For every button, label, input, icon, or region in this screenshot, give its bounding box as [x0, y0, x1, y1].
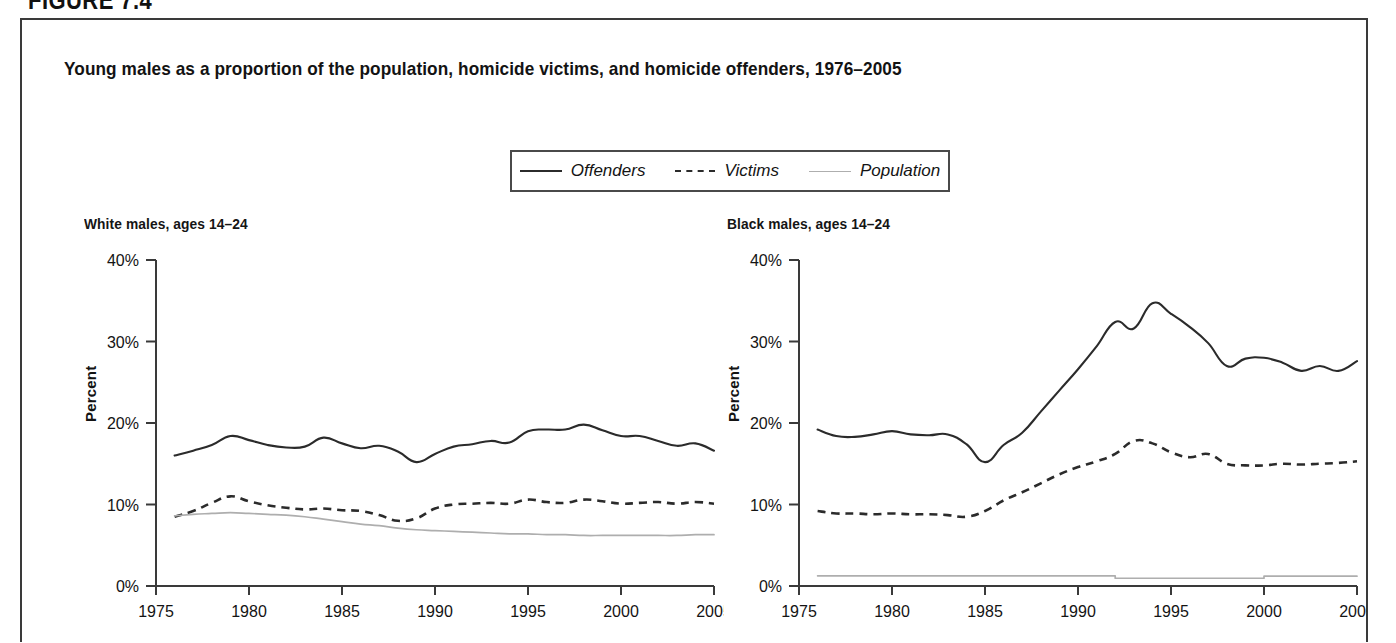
figure-number-header: FIGURE 7.4	[28, 0, 152, 15]
legend-label-victims: Victims	[724, 161, 778, 181]
svg-text:30%: 30%	[107, 334, 139, 351]
svg-text:10%: 10%	[107, 497, 139, 514]
chart-legend: Offenders Victims Population	[510, 150, 950, 192]
svg-text:2005: 2005	[1339, 603, 1367, 620]
svg-text:2000: 2000	[1246, 603, 1282, 620]
chart-panel-white-males: White males, ages 14–24 Percent 0%10%20%…	[84, 216, 724, 643]
dashed-line-icon	[675, 170, 715, 172]
legend-label-population: Population	[860, 161, 940, 181]
svg-text:0%: 0%	[116, 578, 139, 595]
svg-text:1995: 1995	[1153, 603, 1189, 620]
line-chart-black-males: 0%10%20%30%40%19751980198519901995200020…	[727, 246, 1367, 643]
thin-line-icon	[809, 171, 851, 172]
svg-text:20%: 20%	[750, 415, 782, 432]
svg-text:1990: 1990	[1060, 603, 1096, 620]
figure-frame: Young males as a proportion of the popul…	[20, 18, 1368, 642]
svg-text:0%: 0%	[759, 578, 782, 595]
svg-text:40%: 40%	[750, 252, 782, 269]
plot-area-white-males: Percent 0%10%20%30%40%197519801985199019…	[84, 246, 724, 643]
solid-line-icon	[520, 170, 562, 172]
svg-text:30%: 30%	[750, 334, 782, 351]
line-chart-white-males: 0%10%20%30%40%19751980198519901995200020…	[84, 246, 724, 643]
svg-text:2000: 2000	[603, 603, 639, 620]
svg-text:1990: 1990	[417, 603, 453, 620]
svg-text:1985: 1985	[324, 603, 360, 620]
chart-panel-black-males: Black males, ages 14–24 Percent 0%10%20%…	[727, 216, 1367, 643]
legend-item-population: Population	[809, 161, 940, 181]
legend-label-offenders: Offenders	[571, 161, 646, 181]
svg-text:20%: 20%	[107, 415, 139, 432]
svg-text:1995: 1995	[510, 603, 546, 620]
svg-text:2005: 2005	[696, 603, 724, 620]
svg-text:1975: 1975	[781, 603, 817, 620]
legend-item-victims: Victims	[675, 161, 778, 181]
svg-text:40%: 40%	[107, 252, 139, 269]
plot-area-black-males: Percent 0%10%20%30%40%197519801985199019…	[727, 246, 1367, 643]
panel-title-white-males: White males, ages 14–24	[84, 216, 692, 232]
svg-text:1980: 1980	[874, 603, 910, 620]
figure-title: Young males as a proportion of the popul…	[64, 58, 902, 80]
svg-text:1985: 1985	[967, 603, 1003, 620]
legend-item-offenders: Offenders	[520, 161, 646, 181]
svg-text:1975: 1975	[138, 603, 174, 620]
panel-title-black-males: Black males, ages 14–24	[727, 216, 1335, 232]
svg-text:10%: 10%	[750, 497, 782, 514]
y-axis-label-left: Percent	[82, 366, 99, 422]
y-axis-label-right: Percent	[725, 366, 742, 422]
svg-text:1980: 1980	[231, 603, 267, 620]
